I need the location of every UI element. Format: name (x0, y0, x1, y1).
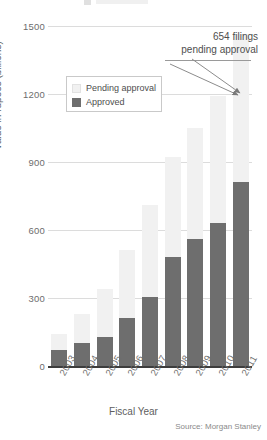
bar-segment-pending-2010 (210, 96, 226, 223)
bar-segment-approved-2008 (165, 257, 181, 366)
bar-segment-pending-2006 (119, 250, 135, 318)
chart-legend: Pending approval Approved (66, 76, 162, 112)
bar-2010[interactable] (210, 96, 226, 366)
y-tick-label-0: 0 (5, 361, 45, 372)
y-axis-title: Value in rupees (billions) (0, 41, 3, 150)
cropped-header-legend (84, 0, 158, 5)
bar-2009[interactable] (187, 128, 203, 366)
bar-segment-approved-2010 (210, 223, 226, 366)
annotation-arrow-icon (150, 55, 260, 100)
legend-swatch-pending-icon (72, 84, 81, 93)
bar-2005[interactable] (97, 289, 113, 366)
bar-segment-pending-2004 (74, 314, 90, 343)
bar-segment-approved-2007 (142, 297, 158, 366)
bar-segment-pending-2007 (142, 205, 158, 297)
bar-segment-approved-2009 (187, 239, 203, 366)
source-note: Source: Morgan Stanley (175, 422, 261, 431)
chart-container: Value in rupees (billions) 0300600900120… (0, 0, 267, 440)
bar-2006[interactable] (119, 250, 135, 366)
annotation-text: 654 filings pending approval (150, 30, 258, 56)
bar-segment-pending-2008 (165, 157, 181, 257)
legend-item-pending[interactable]: Pending approval (72, 81, 156, 95)
cropped-text-line (96, 0, 148, 4)
bar-segment-pending-2009 (187, 128, 203, 239)
annotation-line-1: 654 filings (150, 30, 258, 43)
y-tick-label-900: 900 (5, 157, 45, 168)
legend-item-approved[interactable]: Approved (72, 95, 156, 109)
y-tick-label-1200: 1200 (5, 89, 45, 100)
bar-segment-pending-2003 (51, 334, 67, 350)
y-tick-label-300: 300 (5, 293, 45, 304)
legend-label-pending: Pending approval (86, 83, 156, 93)
legend-label-approved: Approved (86, 97, 125, 107)
bar-segment-pending-2005 (97, 289, 113, 337)
bar-2008[interactable] (165, 157, 181, 366)
bar-2007[interactable] (142, 205, 158, 366)
legend-swatch-approved-icon (72, 98, 81, 107)
cropped-swatch-icon (84, 0, 91, 5)
y-tick-label-1500: 1500 (5, 21, 45, 32)
x-axis-title: Fiscal Year (0, 406, 267, 417)
bar-segment-approved-2011 (233, 182, 249, 366)
y-tick-label-600: 600 (5, 225, 45, 236)
